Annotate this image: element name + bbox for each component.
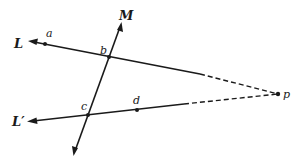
line-L-prime-dashed bbox=[184, 94, 278, 104]
point-b bbox=[107, 55, 111, 59]
line-M-solid bbox=[75, 27, 120, 151]
line-L-dashed bbox=[200, 74, 278, 94]
label-L-prime: L′ bbox=[11, 114, 25, 129]
line-L-prime bbox=[27, 94, 278, 124]
line-L bbox=[28, 39, 278, 95]
geometry-diagram: L a M b c d L′ p bbox=[0, 0, 308, 165]
point-a bbox=[43, 42, 47, 46]
label-L: L bbox=[13, 36, 23, 51]
label-c: c bbox=[81, 100, 87, 113]
label-d: d bbox=[133, 94, 140, 107]
line-L-prime-solid bbox=[33, 104, 184, 121]
line-L-solid bbox=[34, 42, 200, 74]
point-c bbox=[86, 113, 90, 117]
label-M: M bbox=[118, 8, 134, 23]
point-d bbox=[135, 108, 139, 112]
label-p: p bbox=[283, 88, 290, 101]
arrowhead-L-icon bbox=[28, 39, 38, 46]
label-a: a bbox=[46, 27, 53, 40]
arrowhead-L-prime-icon bbox=[27, 118, 38, 125]
line-M bbox=[72, 22, 123, 156]
point-p bbox=[276, 92, 280, 96]
label-b: b bbox=[100, 44, 107, 57]
